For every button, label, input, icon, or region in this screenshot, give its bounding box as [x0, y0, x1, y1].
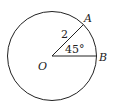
radius-length-label: 2 — [61, 28, 68, 41]
center-o-label: O — [38, 60, 47, 73]
circle-diagram: A B O 2 45° — [0, 0, 113, 101]
point-a-label: A — [83, 12, 92, 25]
point-b-label: B — [98, 51, 107, 64]
angle-label: 45° — [65, 43, 85, 56]
